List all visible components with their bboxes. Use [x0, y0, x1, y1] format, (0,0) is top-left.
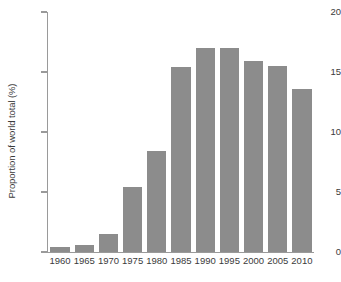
bar-chart: Proportion of world total (%) 05101520 1…: [0, 0, 341, 282]
bar-1965: [75, 245, 94, 252]
x-tick-label: 1985: [169, 256, 193, 266]
bar-1985: [171, 67, 190, 252]
bar-1975: [123, 187, 142, 252]
bar-2000: [244, 61, 263, 252]
bar-1970: [99, 234, 118, 252]
bar-1995: [220, 48, 239, 252]
x-tick-label: 1980: [145, 256, 169, 266]
y-tick-mark: [41, 191, 47, 192]
bar-1980: [147, 151, 166, 252]
x-tick-label: 2010: [290, 256, 314, 266]
x-tick-label: 1990: [193, 256, 217, 266]
x-tick-label: 1970: [96, 256, 120, 266]
y-tick-mark: [41, 71, 47, 72]
y-axis-title: Proportion of world total (%): [0, 0, 22, 282]
bar-1990: [196, 48, 215, 252]
y-tick-mark: [41, 131, 47, 132]
x-tick-label: 1960: [48, 256, 72, 266]
x-axis-labels: 1960196519701975198019851990199520002005…: [48, 256, 314, 272]
x-tick-label: 1975: [121, 256, 145, 266]
bar-1960: [50, 247, 69, 252]
y-tick-mark: [41, 251, 47, 252]
x-tick-label: 2005: [266, 256, 290, 266]
x-tick-label: 2000: [241, 256, 265, 266]
x-tick-label: 1995: [217, 256, 241, 266]
y-tick-mark: [41, 11, 47, 12]
bar-2010: [292, 89, 311, 252]
x-tick-label: 1965: [72, 256, 96, 266]
bar-2005: [268, 66, 287, 252]
bars-layer: [48, 12, 314, 252]
